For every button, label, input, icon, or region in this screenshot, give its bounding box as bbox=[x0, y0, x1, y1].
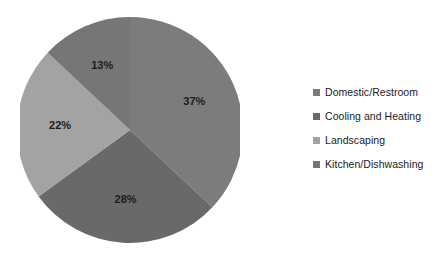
legend-item-label: Cooling and Heating bbox=[325, 111, 421, 122]
pie-chart-plot-area: 37% 28% 22% 13% bbox=[20, 17, 240, 243]
pie-slice-label-cooling-and-heating: 28% bbox=[115, 193, 137, 205]
legend-item-cooling-and-heating[interactable]: Cooling and Heating bbox=[313, 104, 433, 128]
pie-slice-label-landscaping: 22% bbox=[49, 119, 71, 131]
legend-swatch-icon bbox=[313, 137, 320, 144]
legend-item-landscaping[interactable]: Landscaping bbox=[313, 128, 433, 152]
chart-legend: Domestic/Restroom Cooling and Heating La… bbox=[313, 80, 433, 176]
legend-swatch-icon bbox=[313, 161, 320, 168]
legend-item-domestic-restroom[interactable]: Domestic/Restroom bbox=[313, 80, 433, 104]
legend-item-kitchen-dishwashing[interactable]: Kitchen/Dishwashing bbox=[313, 152, 433, 176]
legend-swatch-icon bbox=[313, 89, 320, 96]
legend-swatch-icon bbox=[313, 113, 320, 120]
pie-chart-figure: 37% 28% 22% 13% Domestic/Restroom Coolin… bbox=[0, 0, 436, 255]
legend-item-label: Kitchen/Dishwashing bbox=[325, 159, 423, 170]
legend-item-label: Domestic/Restroom bbox=[325, 87, 418, 98]
pie-chart-svg: 37% 28% 22% 13% bbox=[20, 17, 240, 243]
pie-slice-label-domestic-restroom: 37% bbox=[183, 95, 205, 107]
legend-item-label: Landscaping bbox=[325, 135, 385, 146]
pie-slice-label-kitchen-dishwashing: 13% bbox=[91, 59, 113, 71]
